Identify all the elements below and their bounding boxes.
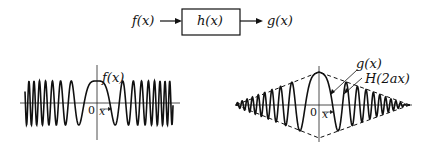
right-curve-label: g(x) bbox=[356, 56, 382, 71]
left-curve-label: f(x) bbox=[102, 70, 124, 85]
envelope-label: H(2ax) bbox=[365, 71, 410, 86]
arrow-icon bbox=[175, 18, 182, 24]
left-origin-label: 0 bbox=[88, 104, 95, 117]
right-origin-label: 0 bbox=[310, 106, 317, 119]
right-x-label: x bbox=[322, 108, 328, 121]
left-x-label: x bbox=[99, 105, 105, 118]
output-label: g(x) bbox=[267, 13, 293, 28]
input-label: f(x) bbox=[132, 13, 154, 28]
arrow-icon bbox=[256, 18, 263, 24]
system-label: h(x) bbox=[197, 13, 223, 28]
